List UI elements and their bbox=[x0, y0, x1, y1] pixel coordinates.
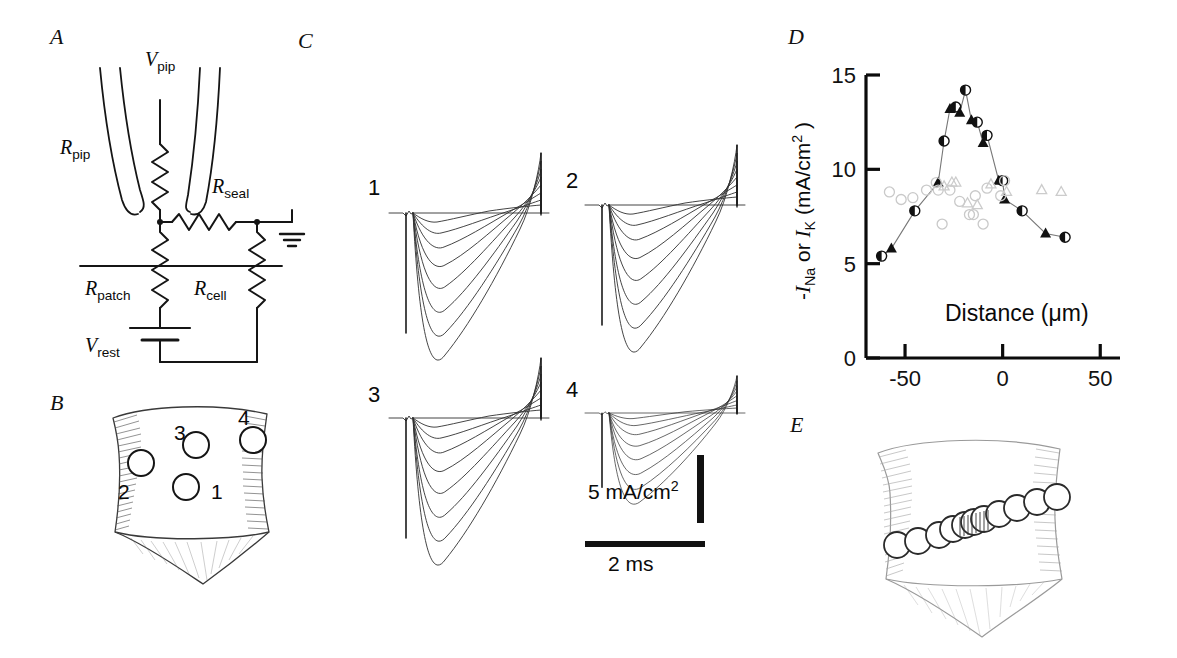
chart-series-line bbox=[882, 90, 1065, 256]
label-r-seal: Rseal bbox=[212, 175, 249, 201]
site-label-1: 1 bbox=[211, 480, 223, 504]
label-r-cell: Rcell bbox=[194, 277, 227, 303]
chart-x-tick-label: 50 bbox=[1088, 366, 1112, 391]
chart-x-tick-label: 0 bbox=[997, 366, 1009, 391]
chart-x-tick-label: -50 bbox=[889, 366, 921, 391]
chart-point-k-circle bbox=[937, 219, 947, 229]
panel-c-traces bbox=[355, 55, 755, 455]
chart-point-na bbox=[886, 243, 897, 253]
chart-y-tick-label: 0 bbox=[844, 346, 856, 371]
figure-canvas: A B C D E bbox=[0, 0, 1177, 658]
panel-d-chart: 051015-50050 bbox=[780, 50, 1170, 390]
site-label-2: 2 bbox=[118, 480, 130, 504]
chart-point-na bbox=[877, 251, 887, 261]
chart-point-k-circle bbox=[908, 193, 918, 203]
site-circle-1 bbox=[173, 474, 199, 500]
trace-label-4: 4 bbox=[566, 377, 578, 403]
panel-label-b: B bbox=[50, 390, 63, 416]
trace-group-2 bbox=[585, 145, 745, 352]
label-v-rest: Vrest bbox=[85, 334, 120, 360]
trace-group-3 bbox=[389, 358, 549, 565]
chart-point-k-circle bbox=[978, 219, 988, 229]
scalebar-current-label: 5 mA/cm2 bbox=[588, 478, 679, 504]
scalebar-time bbox=[585, 541, 705, 547]
label-v-pip: Vpip bbox=[145, 48, 175, 74]
chart-y-tick-label: 5 bbox=[844, 252, 856, 277]
chart-y-tick-label: 10 bbox=[832, 157, 856, 182]
chart-point-k-circle bbox=[922, 185, 932, 195]
panel-e-cell bbox=[860, 425, 1100, 645]
chart-point-na bbox=[1060, 232, 1070, 242]
panel-a-circuit bbox=[60, 50, 320, 380]
trace-label-3: 3 bbox=[368, 382, 380, 408]
chart-point-na bbox=[939, 136, 949, 146]
chart-point-na bbox=[972, 117, 982, 127]
chart-point-na bbox=[1017, 206, 1027, 216]
chart-point-na bbox=[961, 85, 971, 95]
chart-point-na bbox=[910, 206, 920, 216]
trace-label-1: 1 bbox=[368, 175, 380, 201]
chart-x-axis-label: Distance (μm) bbox=[945, 300, 1089, 327]
chart-point-k-circle bbox=[896, 195, 906, 205]
label-r-patch: Rpatch bbox=[85, 277, 130, 303]
chart-y-axis-label: -INa or IK (mA/cm2 ) bbox=[789, 122, 818, 300]
panel-label-a: A bbox=[50, 24, 63, 50]
chart-point-na bbox=[982, 130, 992, 140]
chart-point-na bbox=[1040, 227, 1051, 237]
site-circle-4 bbox=[240, 427, 266, 453]
panel-label-e: E bbox=[790, 412, 803, 438]
site-label-4: 4 bbox=[238, 406, 250, 430]
label-r-pip: Rpip bbox=[60, 136, 90, 162]
site-label-3: 3 bbox=[174, 421, 186, 445]
scalebar-time-label: 2 ms bbox=[608, 552, 654, 576]
site-circle-3 bbox=[183, 432, 209, 458]
scan-site-row bbox=[884, 484, 1070, 558]
chart-y-tick-label: 15 bbox=[832, 63, 856, 88]
chart-point-k-circle bbox=[970, 191, 980, 201]
trace-group-1 bbox=[389, 153, 549, 360]
chart-point-k-triangle bbox=[1056, 186, 1066, 195]
trace-label-2: 2 bbox=[566, 168, 578, 194]
site-circle-2 bbox=[128, 450, 154, 476]
panel-label-d: D bbox=[788, 24, 804, 50]
scalebar-current bbox=[697, 455, 704, 523]
chart-point-k-circle bbox=[884, 187, 894, 197]
chart-point-k-triangle bbox=[1037, 185, 1047, 194]
